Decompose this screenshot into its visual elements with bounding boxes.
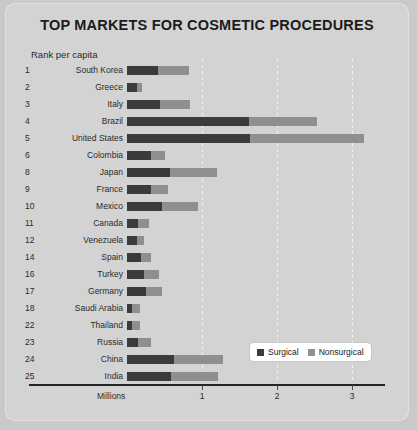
stacked-bar (127, 236, 144, 245)
row-country-label: France (45, 181, 123, 198)
x-tick-2 (277, 385, 278, 390)
row-country-label: Colombia (45, 147, 123, 164)
table-row: 17Germany (5, 283, 409, 300)
table-row: 1South Korea (5, 62, 409, 79)
bar-segment-nonsurgical (137, 236, 145, 245)
bar-segment-surgical (127, 338, 138, 347)
table-row: 12Venezuela (5, 232, 409, 249)
row-rank: 14 (25, 249, 43, 266)
row-rank: 4 (25, 113, 43, 130)
table-row: 22Thailand (5, 317, 409, 334)
stacked-bar (127, 253, 151, 262)
stacked-bar (127, 100, 190, 109)
row-country-label: Canada (45, 215, 123, 232)
bar-segment-nonsurgical (151, 151, 165, 160)
row-country-label: China (45, 351, 123, 368)
table-row: 9France (5, 181, 409, 198)
table-row: 5United States (5, 130, 409, 147)
stacked-bar (127, 338, 151, 347)
bar-segment-surgical (127, 219, 138, 228)
legend-item-surgical: Surgical (257, 347, 299, 357)
bar-segment-nonsurgical (162, 202, 197, 211)
bar-segment-surgical (127, 270, 144, 279)
row-country-label: Spain (45, 249, 123, 266)
stacked-bar (127, 168, 217, 177)
row-rank: 10 (25, 198, 43, 215)
row-rank: 2 (25, 79, 43, 96)
row-country-label: Russia (45, 334, 123, 351)
bar-segment-surgical (127, 134, 250, 143)
row-country-label: Venezuela (45, 232, 123, 249)
stacked-bar (127, 219, 149, 228)
bar-segment-surgical (127, 202, 162, 211)
row-rank: 5 (25, 130, 43, 147)
row-rank: 8 (25, 164, 43, 181)
table-row: 11Canada (5, 215, 409, 232)
row-rank: 23 (25, 334, 43, 351)
bar-segment-nonsurgical (138, 219, 149, 228)
bar-segment-nonsurgical (249, 117, 317, 126)
row-rank: 25 (25, 368, 43, 385)
row-rank: 11 (25, 215, 43, 232)
bar-segment-nonsurgical (170, 168, 217, 177)
row-rank: 3 (25, 96, 43, 113)
legend-label-surgical: Surgical (268, 347, 299, 357)
stacked-bar (127, 270, 159, 279)
chart-card: TOP MARKETS FOR COSMETIC PROCEDURES Rank… (5, 3, 409, 421)
bar-segment-surgical (127, 168, 170, 177)
stacked-bar (127, 355, 223, 364)
bar-segment-nonsurgical (158, 66, 190, 75)
table-row: 18Saudi Arabia (5, 300, 409, 317)
stacked-bar (127, 304, 140, 313)
row-country-label: India (45, 368, 123, 385)
plot-area: 1South Korea2Greece3Italy4Brazil5United … (5, 59, 409, 381)
row-country-label: Greece (45, 79, 123, 96)
bar-segment-surgical (127, 372, 171, 381)
row-country-label: Brazil (45, 113, 123, 130)
row-country-label: Thailand (45, 317, 123, 334)
bar-segment-surgical (127, 185, 151, 194)
row-country-label: United States (45, 130, 123, 147)
bar-segment-nonsurgical (171, 372, 218, 381)
bar-segment-nonsurgical (151, 185, 168, 194)
x-tick-3 (352, 385, 353, 390)
row-country-label: South Korea (45, 62, 123, 79)
table-row: 14Spain (5, 249, 409, 266)
bar-segment-surgical (127, 236, 137, 245)
table-row: 4Brazil (5, 113, 409, 130)
bar-segment-surgical (127, 100, 160, 109)
x-axis-line (29, 384, 385, 386)
row-country-label: Saudi Arabia (45, 300, 123, 317)
row-rank: 16 (25, 266, 43, 283)
row-country-label: Mexico (45, 198, 123, 215)
legend-item-nonsurgical: Nonsurgical (308, 347, 364, 357)
row-rank: 24 (25, 351, 43, 368)
stacked-bar (127, 202, 198, 211)
bar-segment-nonsurgical (174, 355, 224, 364)
stacked-bar (127, 134, 364, 143)
bar-segment-surgical (127, 66, 158, 75)
row-rank: 1 (25, 62, 43, 79)
stacked-bar (127, 66, 189, 75)
bar-segment-nonsurgical (160, 100, 190, 109)
stacked-bar (127, 83, 142, 92)
stacked-bar (127, 151, 165, 160)
bar-segment-nonsurgical (138, 338, 151, 347)
table-row: 3Italy (5, 96, 409, 113)
legend-label-nonsurgical: Nonsurgical (319, 347, 364, 357)
bar-segment-nonsurgical (132, 304, 140, 313)
table-row: 2Greece (5, 79, 409, 96)
table-row: 6Colombia (5, 147, 409, 164)
row-rank: 6 (25, 147, 43, 164)
table-row: 8Japan (5, 164, 409, 181)
bar-segment-surgical (127, 355, 174, 364)
x-axis-unit-label: Millions (97, 391, 125, 401)
x-tick-label-3: 3 (350, 391, 355, 401)
bar-segment-nonsurgical (250, 134, 364, 143)
bar-segment-surgical (127, 117, 249, 126)
bar-segment-nonsurgical (132, 321, 140, 330)
row-country-label: Japan (45, 164, 123, 181)
bar-segment-surgical (127, 253, 141, 262)
page-title: TOP MARKETS FOR COSMETIC PROCEDURES (5, 17, 409, 33)
bar-segment-surgical (127, 287, 146, 296)
